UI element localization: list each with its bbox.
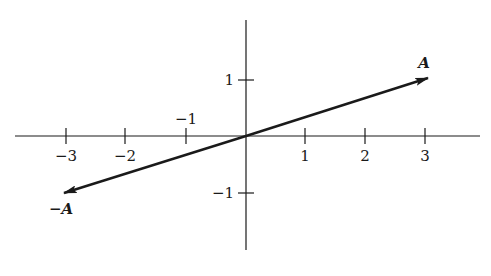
vector-a-arrow (246, 78, 428, 136)
x-tick-label: 2 (360, 147, 370, 165)
y-tick-label: −1 (212, 184, 234, 202)
vector-diagram: −3 −2 −1 1 2 3 1 −1 A −A (0, 0, 491, 276)
vector-a-label: A (416, 54, 430, 72)
x-tick-label: 3 (420, 147, 430, 165)
y-tick-label: 1 (224, 71, 234, 89)
x-tick-label: −1 (175, 110, 197, 128)
vector-minus-a-label: −A (49, 200, 73, 218)
x-tick-label: −3 (55, 147, 77, 165)
x-tick-label: 1 (300, 147, 310, 165)
x-tick-label: −2 (114, 147, 136, 165)
